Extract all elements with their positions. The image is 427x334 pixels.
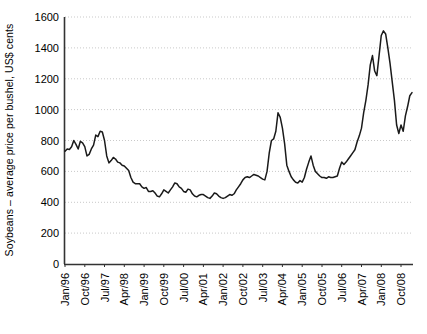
x-tick-label: Jul/97 [99, 273, 111, 302]
y-tick-label: 400 [41, 196, 59, 208]
y-tick-label: 1600 [35, 11, 59, 23]
y-tick-label: 600 [41, 165, 59, 177]
x-tick-label: Jul/03 [257, 273, 269, 302]
x-tick-label: Jul/06 [336, 273, 348, 302]
y-tick-label: 1400 [35, 42, 59, 54]
x-tick-label: Jan/05 [296, 273, 308, 306]
x-tick-label: Apr/01 [197, 273, 209, 305]
y-tick-label: 800 [41, 135, 59, 147]
x-tick-label: Jan/96 [59, 273, 71, 306]
x-axis-ticks: Jan/96Oct/96Jul/97Apr/98Jan/99Oct/99Jul/… [59, 264, 407, 306]
y-axis-ticks: 02004006008001000120014001600 [35, 11, 59, 270]
y-tick-label: 200 [41, 227, 59, 239]
x-tick-label: Apr/98 [118, 273, 130, 305]
x-tick-label: Apr/04 [276, 273, 288, 305]
x-tick-label: Oct/05 [316, 273, 328, 305]
x-tick-label: Jul/00 [178, 273, 190, 302]
chart-container: Soybeans – average price per bushel, US$… [0, 0, 427, 334]
x-tick-label: Oct/08 [395, 273, 407, 305]
x-tick-label: Oct/96 [79, 273, 91, 305]
x-tick-label: Jan/02 [217, 273, 229, 306]
x-tick-label: Oct/02 [237, 273, 249, 305]
x-tick-label: Jan/08 [375, 273, 387, 306]
gridlines [65, 17, 412, 233]
y-tick-label: 1200 [35, 73, 59, 85]
x-tick-label: Jan/99 [138, 273, 150, 306]
line-chart-plot: 02004006008001000120014001600 Jan/96Oct/… [0, 0, 427, 334]
x-tick-label: Apr/07 [356, 273, 368, 305]
data-series-line [65, 31, 412, 199]
y-tick-label: 0 [53, 258, 59, 270]
y-tick-label: 1000 [35, 104, 59, 116]
x-tick-label: Oct/99 [158, 273, 170, 305]
